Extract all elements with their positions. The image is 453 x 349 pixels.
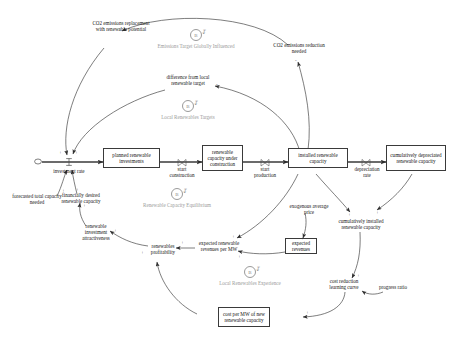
loop-marker: B <box>172 192 182 197</box>
aux-cumulatively-installed-renewable-capacity[interactable]: cumulatively installed renewable capacit… <box>332 218 390 230</box>
aux-label: exogenous average price <box>290 203 329 215</box>
aux-label: difference from local renewable target <box>167 74 210 86</box>
loop-marker: B <box>191 33 201 38</box>
flow-start-production[interactable]: start production <box>249 166 281 178</box>
loop-direction-arrow-icon: ↧ <box>201 29 206 35</box>
loop-local-renewables-experience[interactable]: B ↧ Local Renewables Experience <box>204 266 296 286</box>
polarity-sign: + <box>376 210 379 215</box>
flow-start-construction[interactable]: start construction <box>165 166 199 178</box>
flow-depreciation-rate[interactable]: depreciation rate <box>350 166 384 178</box>
polarity-sign: + <box>59 150 62 155</box>
polarity-sign: - <box>295 58 297 63</box>
loop-renewable-capacity-equilibrium[interactable]: B ↧ Renewable Capacity Equilibrium <box>131 188 223 208</box>
polarity-sign: + <box>118 27 121 32</box>
polarity-sign: + <box>232 234 235 239</box>
polarity-sign: + <box>83 203 86 208</box>
aux-renewables-profitability[interactable]: renewables profitability <box>146 243 180 255</box>
aux-progress-ratio[interactable]: progress ratio <box>374 284 412 290</box>
polarity-sign: + <box>357 273 360 278</box>
polarity-sign: + <box>114 228 117 233</box>
flow-label: investment rate <box>53 168 84 174</box>
aux-label: renewables profitability <box>151 243 175 255</box>
stock-cumulatively-depreciated-renewable-capacity[interactable]: cumulatively depreciated renewable capac… <box>386 145 446 171</box>
loop-emissions-target-globally-influenced[interactable]: B ↧ Emissions Target Globally Influenced <box>150 29 242 49</box>
loop-balancing-icon: B ↧ <box>171 188 183 200</box>
aux-label: cost reduction learning curve <box>329 278 358 290</box>
polarity-sign: + <box>141 250 144 255</box>
stock-cost-per-mw-of-new-renewable-capacity[interactable]: cost per MW of new renewable capacity <box>218 307 270 327</box>
flow-label: depreciation rate <box>354 166 379 178</box>
polarity-sign: + <box>306 310 309 315</box>
flow-label: start construction <box>169 166 194 178</box>
loop-local-renewables-targets[interactable]: B ↧ Local Renewables Targets <box>142 100 234 120</box>
stock-installed-renewable-capacity[interactable]: installed renewable capacity <box>288 148 348 168</box>
aux-co2-emissions-reduction-needed[interactable]: CO2 emissions reduction needed <box>270 42 328 54</box>
aux-co2-emissions-replacement-with-renewable-potential[interactable]: CO2 emissions replacement with renewable… <box>88 20 154 32</box>
aux-label: renewable investment attractiveness <box>82 223 110 241</box>
aux-label: CO2 emissions reduction needed <box>273 42 325 54</box>
stock-label: planned renewable investments <box>106 152 157 164</box>
aux-label: financially desired renewable capacity <box>61 192 100 204</box>
polarity-sign: + <box>301 236 304 241</box>
loop-direction-arrow-icon: ↧ <box>255 266 260 272</box>
polarity-sign: + <box>75 150 78 155</box>
source-cloud <box>35 159 42 164</box>
polarity-sign: + <box>62 188 65 193</box>
stock-label: cumulatively depreciated renewable capac… <box>389 152 443 164</box>
polarity-sign: + <box>181 240 184 245</box>
loop-balancing-icon: B ↧ <box>190 29 202 41</box>
aux-label: progress ratio <box>379 284 407 290</box>
loop-marker: B <box>183 104 193 109</box>
loop-name: Emissions Target Globally Influenced <box>150 43 242 49</box>
stock-label: renewable capacity under construction <box>205 149 240 167</box>
stock-label: cost per MW of new renewable capacity <box>221 311 267 323</box>
loop-balancing-icon: B ↧ <box>182 100 194 112</box>
aux-difference-from-local-renewable-target[interactable]: difference from local renewable target <box>160 74 216 86</box>
aux-label: CO2 emissions replacement with renewable… <box>92 20 149 32</box>
aux-label: cumulatively installed renewable capacit… <box>338 218 383 230</box>
causal-loop-diagram: planned renewable investments renewable … <box>0 0 453 349</box>
flow-label: start production <box>254 166 276 178</box>
loop-marker: B <box>245 270 255 275</box>
aux-expected-renewable-revenues-per-mw[interactable]: expected renewable revenues per MW <box>192 240 246 252</box>
polarity-sign: - <box>216 82 218 87</box>
aux-financially-desired-renewable-capacity[interactable]: financially desired renewable capacity <box>52 192 110 204</box>
stock-label: installed renewable capacity <box>291 152 345 164</box>
aux-cost-reduction-learning-curve[interactable]: cost reduction learning curve <box>322 278 366 290</box>
loop-name: Local Renewables Experience <box>204 280 296 286</box>
polarity-sign: + <box>76 187 79 192</box>
flow-investment-rate[interactable]: investment rate <box>52 168 86 174</box>
loop-direction-arrow-icon: ↧ <box>193 100 198 106</box>
aux-exogenous-average-price[interactable]: exogenous average price <box>288 203 330 215</box>
polarity-sign: + <box>66 149 69 154</box>
loop-balancing-icon: B ↧ <box>244 266 256 278</box>
loop-name: Renewable Capacity Equilibrium <box>131 202 223 208</box>
polarity-sign: + <box>348 212 351 217</box>
stock-renewable-capacity-under-construction[interactable]: renewable capacity under construction <box>202 145 243 171</box>
stock-label: expected revenues <box>288 240 314 252</box>
loop-name: Local Renewables Targets <box>142 114 234 120</box>
polarity-sign: + <box>238 254 241 259</box>
stock-planned-renewable-investments[interactable]: planned renewable investments <box>103 148 160 168</box>
aux-label: expected renewable revenues per MW <box>199 240 239 252</box>
loop-direction-arrow-icon: ↧ <box>182 188 187 194</box>
aux-renewable-investment-attractiveness[interactable]: renewable investment attractiveness <box>76 223 116 241</box>
diagram-link-layer <box>0 0 453 349</box>
